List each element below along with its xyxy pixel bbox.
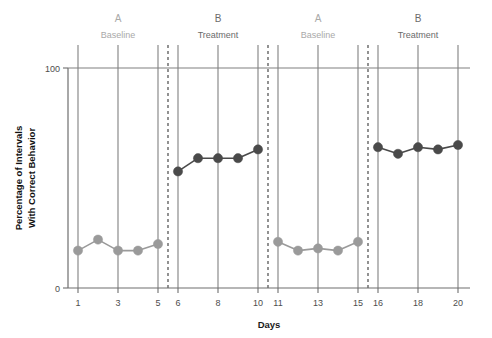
data-point-day-12 (293, 246, 302, 255)
data-point-day-13 (313, 244, 322, 253)
data-point-day-11 (273, 237, 282, 246)
data-point-day-1 (73, 246, 82, 255)
x-tick-label-11: 11 (273, 298, 282, 308)
phase-name-4: Treatment (398, 30, 439, 40)
x-tick-label-18: 18 (413, 298, 423, 308)
y-tick-label-0: 0 (55, 284, 60, 294)
chart-container: ABaselineBTreatmentABaselineBTreatment 0… (0, 0, 492, 338)
data-point-day-3 (113, 246, 122, 255)
x-axis-title: Days (258, 319, 281, 330)
data-point-day-16 (373, 143, 382, 152)
data-point-day-20 (453, 140, 462, 149)
data-point-day-7 (193, 154, 202, 163)
x-tick-label-6: 6 (175, 298, 180, 308)
x-tick-label-10: 10 (253, 298, 263, 308)
data-point-day-5 (153, 239, 162, 248)
x-tick-label-8: 8 (215, 298, 220, 308)
phase-letter-2: B (215, 13, 222, 24)
data-point-day-8 (213, 154, 222, 163)
x-tick-label-20: 20 (453, 298, 463, 308)
abab-reversal-line-chart: ABaselineBTreatmentABaselineBTreatment 0… (0, 0, 492, 338)
phase-name-3: Baseline (301, 30, 336, 40)
data-point-day-4 (133, 246, 142, 255)
y-axis-title-line-1: Percentage of Intervals (13, 126, 24, 231)
data-point-day-9 (233, 154, 242, 163)
phase-letter-3: A (315, 13, 322, 24)
x-tick-label-3: 3 (115, 298, 120, 308)
y-axis-title-line-2: With Correct Behavior (26, 128, 37, 229)
y-tick-label-100: 100 (45, 64, 60, 74)
data-point-day-19 (433, 145, 442, 154)
data-point-day-14 (333, 246, 342, 255)
x-tick-label-1: 1 (75, 298, 80, 308)
phase-name-1: Baseline (101, 30, 136, 40)
data-point-day-15 (353, 237, 362, 246)
data-point-day-17 (393, 149, 402, 158)
data-point-day-6 (173, 167, 182, 176)
phase-letter-1: A (115, 13, 122, 24)
data-point-day-2 (93, 235, 102, 244)
x-tick-label-16: 16 (373, 298, 383, 308)
data-point-day-10 (253, 145, 262, 154)
x-tick-label-15: 15 (353, 298, 363, 308)
x-tick-label-5: 5 (155, 298, 160, 308)
phase-name-2: Treatment (198, 30, 239, 40)
x-tick-label-13: 13 (313, 298, 323, 308)
phase-letter-4: B (415, 13, 422, 24)
data-point-day-18 (413, 143, 422, 152)
